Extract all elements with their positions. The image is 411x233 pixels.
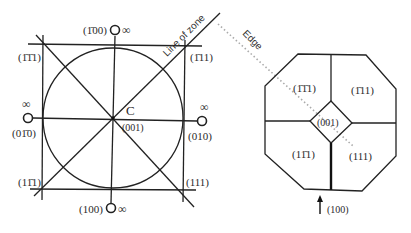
- center-label: C: [126, 103, 135, 118]
- face-label-top-left: (1̄1̄1): [293, 82, 316, 95]
- infinity-top: ∞: [122, 23, 131, 37]
- pole-marker-right: [198, 117, 207, 126]
- pole-label-right: (010): [188, 130, 212, 143]
- infinity-bottom: ∞: [118, 202, 127, 216]
- center-pole-label: (001): [122, 122, 144, 134]
- infinity-right: ∞: [200, 100, 209, 114]
- pole-label-top-right: (1̄11): [190, 51, 213, 64]
- pole-label-bottom-left: (11̄1): [18, 176, 41, 189]
- arrow-up-icon: [317, 195, 323, 202]
- zone-line-bottom: [30, 189, 196, 190]
- face-label-top-right: (1̄11): [351, 84, 374, 97]
- stereogram: (1̄00) ∞ (100) ∞ ∞ (01̄0) ∞ (010) (1̄1̄1…: [12, 12, 220, 216]
- face-label-bottom-left: (11̄1): [292, 148, 315, 161]
- pole-marker-top: [111, 26, 120, 35]
- face-label-center: (001): [317, 117, 339, 129]
- pole-label-left: (01̄0): [12, 127, 36, 140]
- face-label-bottom-right: (111): [349, 150, 372, 163]
- infinity-left: ∞: [22, 97, 31, 111]
- arrow-label: (100): [327, 204, 349, 216]
- pole-label-bottom: (100): [79, 203, 103, 216]
- pole-label-bottom-right: (111): [186, 176, 209, 189]
- crystal-face-diagram: (1̄1̄1) (1̄11) (001) (11̄1) (111) (100): [265, 54, 396, 216]
- stereographic-projection-diagram: (1̄00) ∞ (100) ∞ ∞ (01̄0) ∞ (010) (1̄1̄1…: [0, 0, 411, 233]
- pole-label-top: (1̄00): [83, 24, 107, 37]
- pole-marker-left: [24, 114, 33, 123]
- pole-label-top-left: (1̄1̄1): [18, 51, 41, 64]
- center-point: [111, 116, 115, 120]
- edge-label: Edge: [241, 28, 266, 53]
- pole-marker-bottom: [107, 204, 116, 213]
- zone-line-left: [42, 35, 43, 200]
